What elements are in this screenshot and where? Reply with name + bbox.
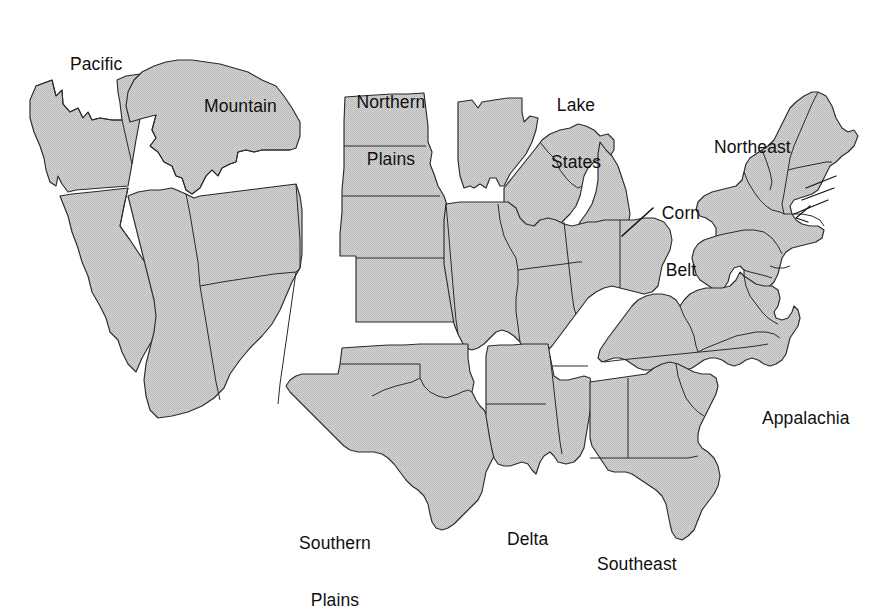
region-label-delta: Delta	[507, 492, 548, 587]
region-southeast[interactable]	[590, 362, 720, 540]
region-label-mountain: Mountain	[204, 59, 277, 154]
label-line: Plains	[286, 591, 384, 610]
label-line: Corn	[652, 204, 710, 223]
label-line: Appalachia	[762, 409, 850, 428]
region-label-corn-belt: Corn Belt	[652, 166, 710, 318]
label-line: Northeast	[714, 138, 791, 157]
label-line: Plains	[345, 150, 437, 169]
region-label-northeast: Northeast	[714, 100, 791, 195]
label-line: Southeast	[597, 555, 677, 574]
label-line: States	[540, 153, 612, 172]
label-line: Belt	[652, 261, 710, 280]
label-line: Mountain	[204, 97, 277, 116]
label-line: Lake	[540, 96, 612, 115]
label-line: Delta	[507, 530, 548, 549]
region-label-appalachia: Appalachia	[762, 371, 850, 466]
region-delta[interactable]	[486, 344, 592, 474]
label-line: Pacific	[70, 55, 122, 74]
region-label-pacific: Pacific	[70, 17, 122, 112]
region-label-southeast: Southeast	[597, 517, 677, 610]
region-label-lake-states: Lake States	[540, 58, 612, 210]
label-line: Northern	[345, 93, 437, 112]
label-line: Southern	[286, 534, 384, 553]
northeast-leader-line-lower	[794, 200, 828, 214]
region-label-southern-plains: Southern Plains	[286, 496, 384, 610]
region-label-northern-plains: Northern Plains	[345, 55, 437, 207]
